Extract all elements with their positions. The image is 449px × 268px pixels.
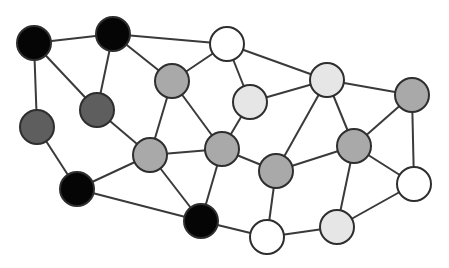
node-O-black	[184, 204, 218, 238]
node-layer	[17, 17, 431, 254]
node-I-darkgray	[20, 110, 54, 144]
node-M-gray	[259, 154, 293, 188]
node-L-gray	[337, 129, 371, 163]
node-H-darkgray	[80, 93, 114, 127]
node-F-gray	[155, 64, 189, 98]
node-Q-lightgray	[320, 210, 354, 244]
node-C-white	[210, 27, 244, 61]
node-N-black	[60, 172, 94, 206]
node-J-gray	[133, 138, 167, 172]
node-G-lightgray	[233, 85, 267, 119]
network-graph	[0, 0, 449, 268]
edge-N-O	[77, 189, 201, 221]
node-D-lightgray	[310, 63, 344, 97]
node-E-gray	[395, 78, 429, 112]
node-B-black	[96, 17, 130, 51]
node-K-gray	[205, 132, 239, 166]
node-A-black	[17, 26, 51, 60]
node-P-white	[250, 220, 284, 254]
node-R-white	[397, 167, 431, 201]
